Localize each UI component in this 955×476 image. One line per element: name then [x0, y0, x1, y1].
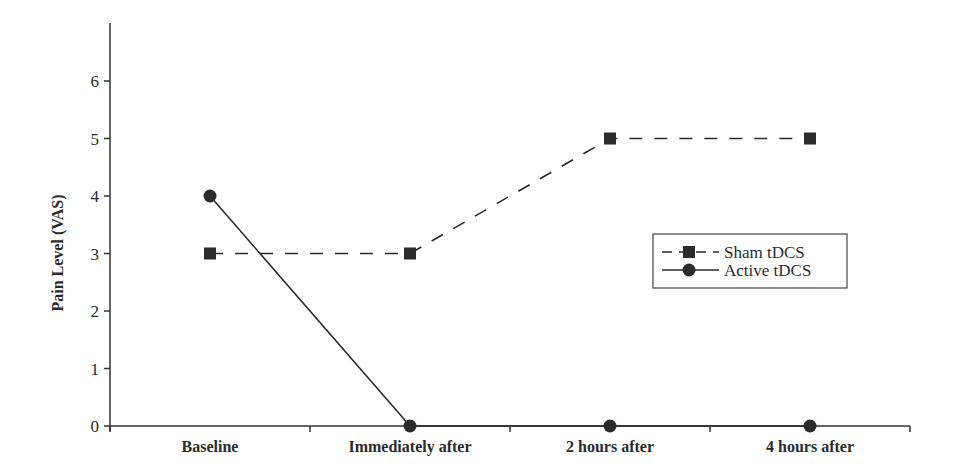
data-point-active-tdcs [404, 420, 417, 433]
line-chart: Pain Level (VAS) 0123456BaselineImmediat… [0, 0, 955, 476]
data-point-sham-tdcs [604, 133, 616, 145]
legend-label: Sham tDCS [724, 243, 805, 262]
y-tick-label: 2 [91, 302, 100, 321]
data-point-sham-tdcs [404, 248, 416, 260]
legend-label: Active tDCS [724, 261, 811, 280]
legend-marker-active-tdcs [683, 264, 696, 277]
data-point-active-tdcs [204, 190, 217, 203]
y-tick-label: 3 [91, 245, 100, 264]
x-tick-label: 2 hours after [566, 438, 654, 455]
data-point-active-tdcs [604, 420, 617, 433]
data-point-active-tdcs [804, 420, 817, 433]
y-tick-label: 5 [91, 130, 100, 149]
legend-marker-sham-tdcs [683, 246, 695, 258]
y-tick-label: 6 [91, 72, 100, 91]
x-tick-label: 4 hours after [766, 438, 854, 455]
data-point-sham-tdcs [804, 133, 816, 145]
x-tick-label: Baseline [182, 438, 239, 455]
y-axis-title: Pain Level (VAS) [49, 194, 67, 311]
y-tick-label: 4 [91, 187, 100, 206]
y-tick-label: 1 [91, 360, 100, 379]
x-tick-label: Immediately after [348, 438, 471, 456]
series-line-active-tdcs [210, 196, 810, 426]
legend: Sham tDCSActive tDCS [653, 234, 847, 288]
series-active-tdcs [204, 190, 817, 433]
data-point-sham-tdcs [204, 248, 216, 260]
y-tick-label: 0 [91, 417, 100, 436]
